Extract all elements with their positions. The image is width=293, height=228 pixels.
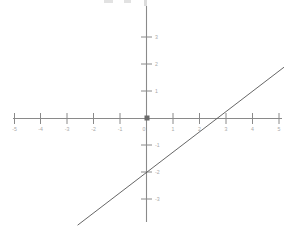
graph-figure: -5 -4 -3 -2 -1 0 1 2 3 4 5 3 2 1 -1 -2 -… [0, 0, 293, 228]
y-label-2: 2 [155, 61, 158, 67]
x-label--3: -3 [65, 126, 70, 132]
y-label-1: 1 [155, 88, 158, 94]
x-label-3: 3 [225, 126, 228, 132]
coordinate-plane-plot: -5 -4 -3 -2 -1 0 1 2 3 4 5 3 2 1 -1 -2 -… [0, 0, 293, 228]
x-label--1: -1 [118, 126, 123, 132]
x-label-0: 0 [143, 126, 146, 132]
line-segment [78, 67, 284, 225]
x-label--2: -2 [91, 126, 96, 132]
x-label--4: -4 [38, 126, 43, 132]
title-fragment [104, 0, 147, 6]
y-label--1: -1 [155, 142, 160, 148]
y-label-3: 3 [155, 34, 158, 40]
origin-marker [145, 116, 150, 121]
plotted-line-series [78, 67, 284, 225]
y-label--2: -2 [155, 169, 160, 175]
x-label-4: 4 [251, 126, 254, 132]
x-label-5: 5 [278, 126, 281, 132]
x-label--5: -5 [12, 126, 17, 132]
x-label-1: 1 [172, 126, 175, 132]
y-label--3: -3 [155, 196, 160, 202]
